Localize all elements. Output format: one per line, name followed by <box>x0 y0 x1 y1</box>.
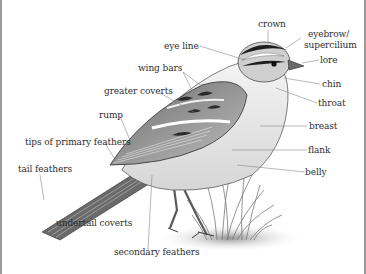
tail <box>42 175 152 240</box>
diagram-canvas: crown eyebrow/ supercilium lore eye line… <box>0 0 366 274</box>
label-eye-line: eye line <box>164 41 199 51</box>
label-flank: flank <box>308 145 330 155</box>
bird-beak <box>288 60 304 70</box>
label-eyebrow: eyebrow/ <box>308 29 349 39</box>
label-tail-feathers: tail feathers <box>18 164 72 174</box>
label-secondary-feathers: secondary feathers <box>114 247 199 257</box>
label-wing-bars: wing bars <box>138 63 182 73</box>
label-belly: belly <box>305 167 326 177</box>
label-tips-of-primary-feathers: tips of primary feathers <box>25 137 131 147</box>
label-crown: crown <box>258 19 286 29</box>
label-rump: rump <box>99 110 123 120</box>
label-lore: lore <box>320 55 338 65</box>
label-supercilium: supercilium <box>304 40 357 50</box>
label-throat: throat <box>318 98 346 108</box>
label-breast: breast <box>309 121 337 131</box>
bird-eye <box>271 61 276 66</box>
label-undertail-coverts: undertail coverts <box>56 218 132 228</box>
label-greater-coverts: greater coverts <box>104 86 173 96</box>
label-chin: chin <box>322 79 341 89</box>
